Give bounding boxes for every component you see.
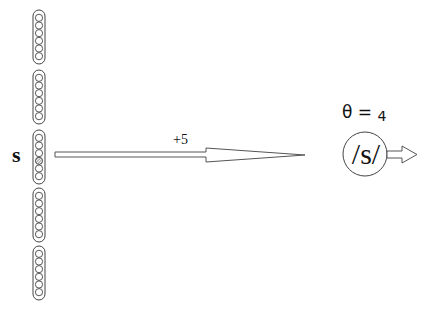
unit-circle bbox=[35, 97, 42, 104]
unit-circle bbox=[35, 215, 42, 222]
unit-circle bbox=[35, 266, 42, 273]
unit-circle bbox=[35, 192, 42, 199]
unit-circle bbox=[35, 223, 42, 230]
weight-label: +5 bbox=[173, 133, 188, 147]
unit-circle bbox=[35, 208, 42, 215]
unit-circle bbox=[35, 90, 42, 97]
input-column bbox=[33, 188, 45, 242]
unit-circle bbox=[35, 258, 42, 265]
unit-circle bbox=[35, 273, 42, 280]
unit-circle bbox=[35, 22, 42, 29]
unit-circle bbox=[35, 150, 42, 157]
input-column bbox=[33, 10, 45, 64]
unit-circle bbox=[35, 82, 42, 89]
unit-circle bbox=[35, 173, 42, 180]
theta-symbol: θ bbox=[342, 102, 352, 122]
input-label: s bbox=[12, 144, 21, 166]
unit-circle bbox=[35, 113, 42, 120]
unit-circle bbox=[35, 37, 42, 44]
equals-sign: = bbox=[358, 102, 372, 122]
output-node-label: /s/ bbox=[347, 139, 385, 169]
unit-circle bbox=[35, 14, 42, 21]
unit-circle bbox=[35, 142, 42, 149]
unit-circle bbox=[35, 134, 42, 141]
unit-circle bbox=[35, 250, 42, 257]
unit-circle bbox=[35, 105, 42, 112]
input-column bbox=[33, 70, 45, 124]
output-arrow bbox=[387, 146, 417, 163]
input-feature-columns bbox=[33, 10, 45, 300]
input-column bbox=[33, 130, 45, 184]
unit-circle bbox=[35, 165, 42, 172]
active-unit-circle bbox=[35, 157, 42, 164]
unit-circle bbox=[35, 200, 42, 207]
unit-circle bbox=[35, 289, 42, 296]
unit-circle bbox=[35, 231, 42, 238]
threshold-value: 4 bbox=[377, 108, 386, 124]
unit-circle bbox=[35, 74, 42, 81]
threshold-label: θ = 4 bbox=[342, 104, 386, 121]
unit-circle bbox=[35, 30, 42, 37]
weighted-connection-arrow bbox=[55, 148, 305, 162]
unit-circle bbox=[35, 281, 42, 288]
input-column bbox=[33, 246, 45, 300]
unit-circle bbox=[35, 53, 42, 60]
unit-circle bbox=[35, 45, 42, 52]
